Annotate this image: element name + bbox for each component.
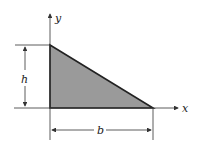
x-axis-label: x	[182, 102, 189, 115]
y-axis-label: y	[54, 12, 62, 25]
h-label: h	[21, 73, 28, 86]
b-label: b	[97, 124, 104, 137]
shaded-triangle	[50, 45, 153, 108]
triangle-diagram: h b y x	[0, 0, 199, 153]
